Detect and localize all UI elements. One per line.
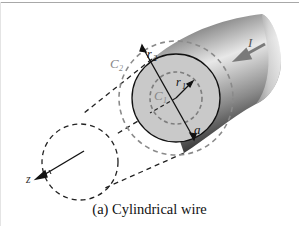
far-contour-circle (42, 124, 118, 200)
projection-line-bottom (105, 153, 184, 188)
cylindrical-wire-diagram: I r 2 r 1 C 2 C 1 a z (0, 0, 299, 226)
label-z: z (25, 172, 31, 186)
svg-text:2: 2 (119, 64, 123, 73)
svg-text:2: 2 (153, 54, 157, 63)
label-a: a (194, 122, 201, 137)
svg-text:1: 1 (163, 96, 167, 105)
svg-text:r: r (147, 47, 152, 61)
svg-text:C: C (154, 88, 163, 103)
label-c2: C 2 (110, 56, 123, 73)
label-current: I (247, 35, 253, 50)
figure-caption: (a) Cylindrical wire (0, 201, 299, 218)
svg-text:C: C (110, 56, 119, 71)
svg-text:r: r (176, 75, 181, 89)
svg-text:1: 1 (182, 82, 186, 91)
